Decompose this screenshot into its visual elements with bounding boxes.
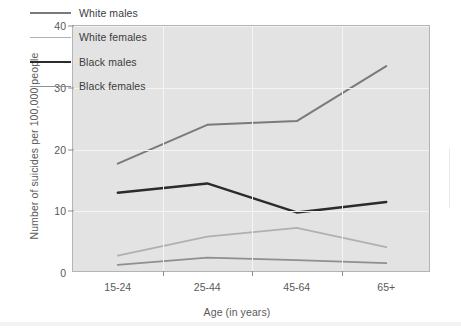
legend-label: Black males	[79, 56, 137, 68]
legend-item[interactable]: Black females	[30, 80, 147, 93]
x-tick-label: 65+	[341, 281, 431, 293]
legend-item[interactable]: White males	[30, 6, 147, 19]
legend-item[interactable]: White females	[30, 31, 147, 44]
page-right-rule	[449, 148, 450, 208]
gridline-horizontal	[73, 150, 429, 151]
gridline-vertical	[252, 26, 253, 271]
y-tick-mark	[68, 149, 74, 150]
y-tick-label: 10	[26, 205, 66, 217]
legend-line-swatch	[30, 86, 71, 87]
gridline-vertical	[342, 26, 343, 271]
x-tick-mark	[252, 271, 253, 276]
y-tick-label: 20	[26, 144, 66, 156]
x-tick-label: 15-24	[73, 281, 163, 293]
legend-label: White females	[79, 31, 147, 43]
y-tick-label: 0	[26, 267, 66, 279]
gridline-vertical	[163, 26, 164, 271]
gridline-horizontal	[73, 211, 429, 212]
x-tick-label: 25-44	[162, 281, 252, 293]
x-axis-title: Age (in years)	[72, 306, 402, 318]
legend-line-swatch	[30, 12, 71, 14]
legend-line-swatch	[30, 37, 71, 38]
x-tick-label: 45-64	[252, 281, 342, 293]
legend-label: Black females	[79, 80, 146, 92]
legend-label: White males	[79, 7, 138, 19]
chart-figure: Number of suicides per 100,000 people 01…	[0, 0, 461, 332]
y-tick-mark	[68, 211, 74, 212]
legend-item[interactable]: Black males	[30, 55, 147, 68]
legend-line-swatch	[30, 61, 71, 63]
page-bottom-band	[0, 322, 461, 326]
x-tick-mark	[342, 271, 343, 276]
chart-legend: White malesWhite femalesBlack malesBlack…	[30, 6, 147, 93]
x-tick-mark	[163, 271, 164, 276]
